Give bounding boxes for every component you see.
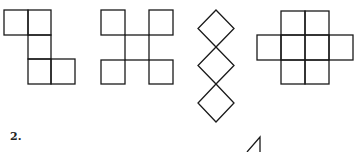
net-figure-3: [198, 10, 234, 122]
net-figure-2: [101, 10, 173, 84]
net-figure-4: [257, 11, 353, 84]
problem-number: 2.: [10, 130, 21, 143]
triangle-figure-partial: [247, 137, 260, 152]
figures-canvas: [0, 0, 355, 152]
net-figure-1: [4, 10, 75, 84]
